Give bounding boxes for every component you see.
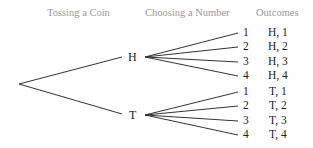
branch-number: 1: [243, 27, 249, 39]
branch-number: 1: [243, 86, 249, 98]
branch-number: 4: [243, 129, 249, 141]
outcome-label: H, 3: [268, 56, 288, 68]
outcome-label: H, 4: [268, 70, 288, 82]
outcome-label: T, 1: [269, 86, 287, 98]
header-tossing-coin: Tossing a Coin: [47, 7, 110, 18]
node-heads: H: [128, 51, 137, 63]
outcome-label: H, 1: [268, 27, 288, 39]
node-tails: T: [129, 109, 136, 121]
outcome-label: T, 4: [269, 129, 287, 141]
header-outcomes: Outcomes: [256, 7, 299, 18]
branch-number: 4: [243, 70, 249, 82]
branch-number: 3: [243, 115, 249, 127]
branch-number: 3: [243, 56, 249, 68]
branch-number: 2: [243, 41, 249, 53]
outcome-label: T, 3: [269, 115, 287, 127]
tree-diagram-lines: [0, 0, 313, 148]
outcome-label: H, 2: [268, 41, 288, 53]
outcome-label: T, 2: [269, 100, 287, 112]
branch-number: 2: [243, 100, 249, 112]
header-choosing-number: Choosing a Number: [145, 7, 230, 18]
